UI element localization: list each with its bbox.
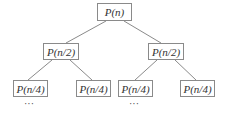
- node-level2-4: P(n/4): [180, 80, 215, 97]
- continuation-ellipsis-left: ···: [24, 98, 34, 109]
- node-level2-4-label: P(n/4): [183, 83, 211, 95]
- edge-left-leftleaf: [28, 60, 52, 80]
- edge-root-left: [66, 21, 106, 43]
- node-level2-1-label: P(n/4): [16, 83, 44, 95]
- node-level1-right: P(n/2): [148, 43, 184, 60]
- node-level2-3: P(n/4): [118, 80, 153, 97]
- node-root: P(n): [97, 3, 132, 21]
- edge-left-rightleaf: [70, 60, 92, 80]
- edge-root-right: [124, 21, 161, 43]
- node-level1-left-label: P(n/2): [47, 46, 75, 58]
- recursion-tree-diagram: P(n) P(n/2) P(n/2) P(n/4) P(n/4) P(n/4) …: [0, 0, 229, 118]
- edge-right-leftleaf: [135, 60, 157, 80]
- node-level2-3-label: P(n/4): [121, 83, 149, 95]
- node-root-label: P(n): [105, 6, 125, 18]
- node-level2-1: P(n/4): [13, 80, 48, 97]
- node-level1-right-label: P(n/2): [152, 46, 180, 58]
- edge-right-rightleaf: [175, 60, 196, 80]
- node-level2-2: P(n/4): [76, 80, 111, 97]
- node-level1-left: P(n/2): [43, 43, 79, 60]
- node-level2-2-label: P(n/4): [79, 83, 107, 95]
- continuation-ellipsis-right: ···: [129, 98, 139, 109]
